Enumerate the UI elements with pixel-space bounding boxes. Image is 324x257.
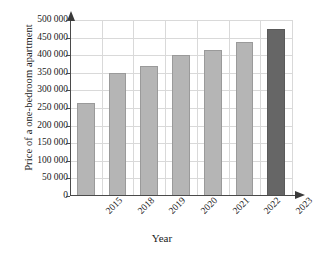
x-tick-label-2019: 2019 (168, 196, 188, 216)
tick-mark (66, 178, 70, 179)
plot-area (70, 20, 292, 196)
y-tick-label: 0 (16, 191, 68, 201)
tick-mark (66, 143, 70, 144)
x-tick-label-2023: 2023 (295, 196, 315, 216)
gridline-horizontal (70, 38, 292, 39)
y-tick-label: 50 000 (16, 174, 68, 184)
bar-2019 (140, 66, 158, 196)
bar-2020 (172, 55, 190, 196)
tick-mark (66, 20, 70, 21)
bar-chart-figure: Price of a one-bedroom apartment 050 000… (0, 0, 324, 257)
y-tick-label: 450 000 (16, 33, 68, 43)
gridline-vertical (102, 20, 103, 196)
x-tick-label-2022: 2022 (263, 196, 283, 216)
bar-2015 (77, 103, 95, 196)
x-tick-label-2018: 2018 (136, 196, 156, 216)
gridline-vertical (229, 20, 230, 196)
gridline-vertical (133, 20, 134, 196)
y-axis-tick-labels: 050 000100 000150 000200 000250 000300 0… (16, 20, 68, 196)
x-tick-label-2015: 2015 (104, 196, 124, 216)
bar-2022 (236, 42, 254, 196)
y-tick-label: 400 000 (16, 50, 68, 60)
bar-2021 (204, 50, 222, 196)
x-axis-tick-labels: 2015201820192020202120222023 (70, 196, 300, 230)
y-tick-label: 200 000 (16, 121, 68, 131)
y-tick-label: 350 000 (16, 68, 68, 78)
tick-mark (66, 161, 70, 162)
gridline-horizontal (70, 20, 292, 21)
y-tick-label: 100 000 (16, 156, 68, 166)
y-axis-line (70, 20, 71, 196)
gridline-vertical (292, 20, 293, 196)
tick-mark (66, 55, 70, 56)
x-tick-label-2021: 2021 (231, 196, 251, 216)
y-tick-label: 300 000 (16, 86, 68, 96)
y-tick-label: 500 000 (16, 15, 68, 25)
tick-mark (66, 90, 70, 91)
bar-2023 (267, 29, 285, 196)
gridline-vertical (165, 20, 166, 196)
x-tick-label-2020: 2020 (200, 196, 220, 216)
y-tick-label: 250 000 (16, 103, 68, 113)
bar-2018 (109, 73, 127, 196)
tick-mark (66, 108, 70, 109)
tick-mark (66, 126, 70, 127)
y-tick-label: 150 000 (16, 138, 68, 148)
gridline-vertical (260, 20, 261, 196)
x-axis-title: Year (0, 232, 324, 244)
tick-mark (66, 38, 70, 39)
gridline-vertical (197, 20, 198, 196)
tick-mark (66, 73, 70, 74)
